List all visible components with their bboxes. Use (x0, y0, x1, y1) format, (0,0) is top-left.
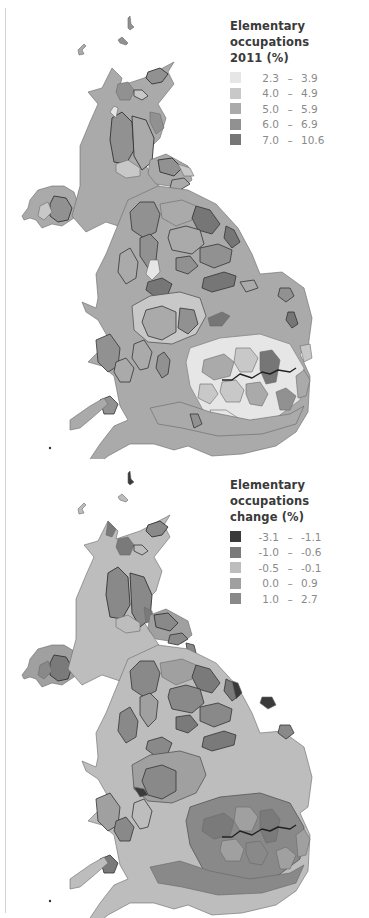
legend-item: -3.1–-1.1 (230, 529, 369, 545)
island-orkney (118, 37, 128, 45)
legend-swatch (230, 134, 241, 145)
legend-swatch (230, 88, 241, 99)
scilly-dot (49, 447, 51, 449)
legend-title-line2: 2011 (%) (230, 50, 369, 66)
legend-swatch (230, 578, 241, 589)
legend-swatch (230, 119, 241, 130)
legend-swatch (230, 103, 241, 114)
legend-title-line2: change (%) (230, 509, 369, 525)
legend-title-line1: Elementary occupations (230, 18, 369, 50)
island-shetland (128, 16, 134, 30)
legend-item: -0.5–-0.1 (230, 560, 369, 576)
legend-swatch (230, 531, 241, 542)
legend-item: 6.0–6.9 (230, 117, 369, 133)
legend-title-line1: Elementary occupations (230, 477, 369, 509)
legend-change: Elementary occupations change (%) -3.1–-… (230, 477, 369, 607)
legend-item: 2.3–3.9 (230, 70, 369, 86)
legend-item: 5.0–5.9 (230, 101, 369, 117)
map-panel-2011: Elementary occupations 2011 (%) 2.3–3.9 … (0, 0, 369, 459)
legend-item: -1.0–-0.6 (230, 545, 369, 561)
legend-item: 4.0–4.9 (230, 86, 369, 102)
legend-2011: Elementary occupations 2011 (%) 2.3–3.9 … (230, 18, 369, 148)
legend-item: 1.0–2.7 (230, 591, 369, 607)
legend-item: 0.0–0.9 (230, 576, 369, 592)
legend-swatch (230, 593, 241, 604)
legend-swatch (230, 72, 241, 83)
legend-swatch (230, 562, 241, 573)
legend-swatch (230, 547, 241, 558)
map-panel-change: Elementary occupations change (%) -3.1–-… (0, 459, 369, 918)
legend-item: 7.0–10.6 (230, 132, 369, 148)
island-shetland-west (78, 44, 86, 55)
